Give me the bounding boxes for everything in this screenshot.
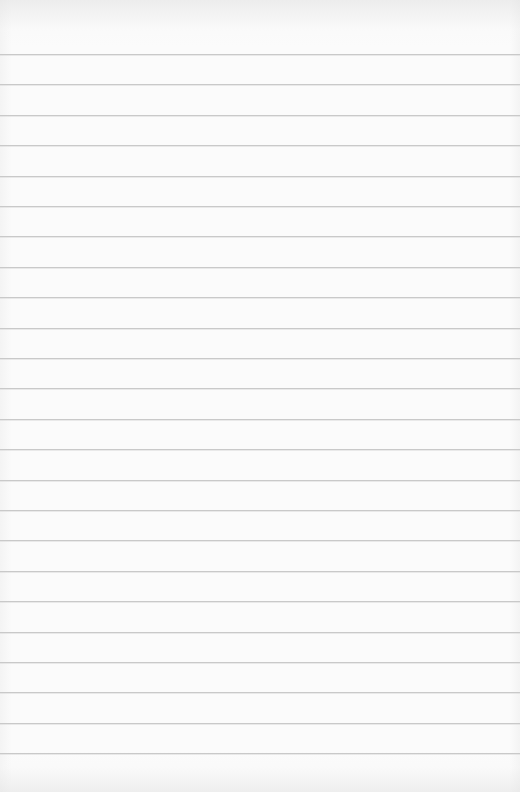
ruled-line bbox=[0, 358, 520, 359]
ruled-line bbox=[0, 267, 520, 268]
ruled-line bbox=[0, 540, 520, 541]
ruled-line bbox=[0, 388, 520, 389]
ruled-line bbox=[0, 328, 520, 329]
ruled-line bbox=[0, 84, 520, 85]
ruled-line bbox=[0, 601, 520, 602]
ruled-paper-sheet bbox=[0, 0, 520, 792]
ruled-line bbox=[0, 662, 520, 663]
ruled-line bbox=[0, 297, 520, 298]
ruled-line bbox=[0, 480, 520, 481]
ruled-line bbox=[0, 54, 520, 55]
ruled-line bbox=[0, 419, 520, 420]
ruled-line bbox=[0, 510, 520, 511]
ruled-line bbox=[0, 449, 520, 450]
ruled-line bbox=[0, 753, 520, 754]
ruled-line bbox=[0, 632, 520, 633]
ruled-line bbox=[0, 206, 520, 207]
ruled-line bbox=[0, 723, 520, 724]
ruled-line bbox=[0, 692, 520, 693]
ruled-line bbox=[0, 236, 520, 237]
ruled-line bbox=[0, 145, 520, 146]
ruled-line bbox=[0, 176, 520, 177]
ruled-line bbox=[0, 115, 520, 116]
ruled-line bbox=[0, 571, 520, 572]
